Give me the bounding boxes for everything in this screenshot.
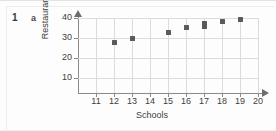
gridline-vertical [222, 18, 223, 93]
x-axis-tick-label: 14 [140, 96, 160, 106]
gridline-vertical [258, 18, 259, 93]
data-point [112, 40, 117, 45]
x-axis-tick-label: 12 [104, 96, 124, 106]
gridline-vertical [204, 18, 205, 93]
x-axis-tick-label: 13 [122, 96, 142, 106]
x-axis-tick-label: 16 [176, 96, 196, 106]
data-point [202, 21, 207, 26]
x-axis-title: Schools [0, 110, 276, 120]
y-axis-tick [74, 58, 78, 59]
x-axis-line [78, 93, 264, 94]
y-axis-tick-label: 20 [62, 53, 72, 62]
scatter-plot: 10203040 11121314151617181920 Restaurant… [0, 0, 276, 131]
y-axis-tick-label: 10 [62, 73, 72, 82]
x-axis-tick-label: 19 [230, 96, 250, 106]
x-axis-tick-label: 11 [86, 96, 106, 106]
plot-area [78, 18, 258, 90]
y-axis-title: Restaurants [40, 0, 50, 50]
y-axis-tick [74, 78, 78, 79]
y-axis-title-wrap: Restaurants [48, 22, 60, 78]
worksheet-page: 1 a 10203040 11121314151617181920 Restau… [0, 0, 276, 131]
gridline-vertical [114, 18, 115, 93]
gridline-vertical [240, 18, 241, 93]
y-axis-tick [74, 18, 78, 19]
x-axis-tick-label: 20 [248, 96, 268, 106]
y-axis-arrow-icon [74, 10, 82, 17]
data-point [220, 19, 225, 24]
data-point [184, 25, 189, 30]
data-point [238, 17, 243, 22]
data-point [166, 30, 171, 35]
data-point [130, 36, 135, 41]
gridline-vertical [96, 18, 97, 93]
x-axis-tick-label: 17 [194, 96, 214, 106]
y-axis-tick-label: 40 [62, 13, 72, 22]
x-axis-tick-label: 18 [212, 96, 232, 106]
x-axis-tick-label: 15 [158, 96, 178, 106]
y-axis-tick [74, 38, 78, 39]
gridline-vertical [132, 18, 133, 93]
gridline-vertical [150, 18, 151, 93]
y-axis-tick-label: 30 [62, 33, 72, 42]
